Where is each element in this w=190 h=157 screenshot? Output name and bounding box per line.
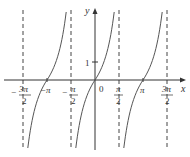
tick-label-pi-2-den: 2 — [116, 96, 121, 106]
minus-sign: − — [62, 87, 67, 97]
y-axis-label: y — [84, 5, 90, 16]
x-axis-label: x — [180, 83, 186, 94]
y-axis-arrow-icon — [93, 8, 98, 14]
tick-label-neg-pi-2-num: π — [71, 84, 76, 94]
tick-label-neg-3pi-2-den: 2 — [22, 96, 27, 106]
tick-label-neg-3pi-2-num: 3π — [18, 84, 29, 94]
tick-label-3pi-2-num: 3π — [161, 84, 172, 94]
tick-label-pi: π — [140, 85, 145, 95]
y-tick-label-1: 1 — [85, 58, 90, 68]
tick-label-pi-2-num: π — [116, 84, 121, 94]
origin-label: 0 — [99, 84, 104, 94]
tangent-graph: y x 1 0 − 3π 2 −π − π 2 π 2 π 3π 2 — [0, 0, 190, 157]
tick-label-neg-pi-2-den: 2 — [71, 96, 76, 106]
minus-sign: − — [11, 87, 16, 97]
x-axis-arrow-icon — [180, 78, 186, 83]
tick-label-neg-pi: −π — [40, 85, 51, 95]
tick-label-3pi-2-den: 2 — [165, 96, 170, 106]
